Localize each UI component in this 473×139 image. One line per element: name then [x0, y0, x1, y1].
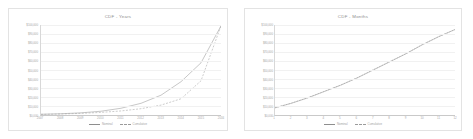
y-axis-tick-label: $80,000 [28, 42, 38, 45]
legend-item: Cumulative [120, 123, 147, 126]
gridline [41, 115, 221, 116]
gridline [41, 70, 221, 71]
legend-label: Cumulative [368, 123, 382, 126]
x-axis-tick-label: 2 [290, 117, 292, 120]
gridline [41, 25, 221, 26]
y-axis-tick-label: $40,000 [28, 78, 38, 81]
x-axis-tick-label: 2012 [137, 117, 143, 120]
x-axis-tick-label: 2015 [198, 117, 204, 120]
gridline [41, 61, 221, 62]
gridline [275, 34, 455, 35]
y-axis-tick-label: $60,000 [263, 60, 273, 63]
chart-title: CDF - Months [245, 14, 461, 19]
chart-legend: NominalCumulative [9, 123, 227, 126]
gridline [41, 52, 221, 53]
y-axis-tick-label: $70,000 [28, 51, 38, 54]
gridline [41, 88, 221, 89]
y-axis-tick-label: $20,000 [263, 96, 273, 99]
y-axis-tick-label: $0,000 [264, 115, 273, 118]
gridline [275, 52, 455, 53]
x-axis-tick-label: 10 [420, 117, 423, 120]
y-axis-tick-label: $70,000 [263, 51, 273, 54]
legend-label: Nominal [102, 123, 113, 126]
chart-panel-cdf-months[interactable]: CDF - Months $0,000$10,000$20,000$30,000… [244, 8, 462, 131]
gridline [275, 106, 455, 107]
x-axis-tick-label: 2009 [77, 117, 83, 120]
y-axis-tick-label: $40,000 [263, 78, 273, 81]
plot-area [274, 25, 455, 116]
gridline [41, 97, 221, 98]
x-axis-tick-label: 8 [388, 117, 390, 120]
gridline [275, 43, 455, 44]
x-axis-tick-label: 2010 [97, 117, 103, 120]
gridline [275, 97, 455, 98]
gridline [41, 34, 221, 35]
legend-swatch-dashed-icon [120, 124, 131, 125]
gridline [41, 106, 221, 107]
x-axis-tick-label: 6 [355, 117, 357, 120]
x-axis-tick-label: 1 [273, 117, 275, 120]
legend-swatch-solid-icon [324, 124, 335, 125]
y-axis-labels: $0,000$10,000$20,000$30,000$40,000$50,00… [248, 25, 274, 116]
legend-swatch-solid-icon [89, 124, 100, 125]
gridline [41, 43, 221, 44]
legend-swatch-dashed-icon [355, 124, 366, 125]
gridline [275, 88, 455, 89]
x-axis-tick-label: 5 [339, 117, 341, 120]
legend-label: Cumulative [133, 123, 147, 126]
legend-label: Nominal [337, 123, 348, 126]
y-axis-tick-label: $80,000 [263, 42, 273, 45]
x-axis-tick-label: 9 [405, 117, 407, 120]
gridline [275, 115, 455, 116]
gridline [41, 79, 221, 80]
gridline [275, 70, 455, 71]
y-axis-tick-label: $10,000 [263, 105, 273, 108]
x-axis-tick-label: 2014 [178, 117, 184, 120]
gridline [275, 25, 455, 26]
legend-item: Cumulative [355, 123, 382, 126]
y-axis-tick-label: $50,000 [28, 69, 38, 72]
x-axis-tick-label: 2007 [37, 117, 43, 120]
y-axis-tick-label: $30,000 [263, 87, 273, 90]
chart-panel-cdf-years[interactable]: CDF - Years $0,000$10,000$20,000$30,000$… [8, 8, 228, 131]
x-axis-tick-label: 3 [306, 117, 308, 120]
x-axis-tick-label: 7 [372, 117, 374, 120]
x-axis-tick-label: 12 [453, 117, 456, 120]
y-axis-tick-label: $100,000 [261, 24, 273, 27]
legend-item: Nominal [89, 123, 113, 126]
x-axis-tick-label: 2013 [157, 117, 163, 120]
y-axis-tick-label: $30,000 [28, 87, 38, 90]
x-axis-tick-label: 2011 [117, 117, 123, 120]
chart-legend: NominalCumulative [245, 123, 461, 126]
x-axis-tick-label: 11 [437, 117, 440, 120]
y-axis-tick-label: $90,000 [28, 33, 38, 36]
gridline [275, 61, 455, 62]
y-axis-tick-label: $50,000 [263, 69, 273, 72]
worksheet-canvas: CDF - Years $0,000$10,000$20,000$30,000$… [0, 0, 473, 139]
x-axis-tick-label: 2016 [218, 117, 224, 120]
y-axis-tick-label: $100,000 [26, 24, 38, 27]
gridline [275, 79, 455, 80]
x-axis-tick-label: 4 [323, 117, 325, 120]
y-axis-tick-label: $60,000 [28, 60, 38, 63]
x-axis-tick-label: 2008 [57, 117, 63, 120]
legend-item: Nominal [324, 123, 348, 126]
y-axis-tick-label: $10,000 [28, 105, 38, 108]
y-axis-tick-label: $20,000 [28, 96, 38, 99]
chart-title: CDF - Years [9, 14, 227, 19]
y-axis-tick-label: $90,000 [263, 33, 273, 36]
y-axis-labels: $0,000$10,000$20,000$30,000$40,000$50,00… [13, 25, 39, 116]
plot-area [40, 25, 221, 116]
